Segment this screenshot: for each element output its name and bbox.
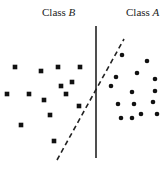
class-b-square-marker [39,69,44,74]
class-b-square-marker [78,65,83,70]
class-b-square-marker [52,139,57,144]
class-b-square-marker [19,123,24,128]
class-b-square-marker [42,98,47,103]
class-a-dot-marker [153,77,158,82]
dashed-separator-line [57,39,124,160]
class-a-dot-marker [155,112,160,117]
class-b-square-marker [59,84,64,89]
class-b-square-marker [56,65,61,70]
class-b-square-marker [64,92,69,97]
class-a-dot-marker [139,112,144,117]
class-b-square-marker [48,113,53,118]
class-a-dot-marker [145,59,150,64]
class-a-label: Class A [126,6,160,18]
class-a-dot-marker [114,75,119,80]
class-a-dot-marker [151,100,156,105]
class-a-dot-marker [119,116,124,121]
class-b-square-marker [13,65,18,70]
class-b-label: Class B [42,6,76,18]
class-separation-diagram: Class B Class A [0,0,167,173]
class-b-square-marker [77,104,82,109]
class-a-dot-marker [153,89,158,94]
class-b-square-marker [70,80,75,85]
class-a-dot-marker [130,90,135,95]
class-b-square-marker [5,92,10,97]
class-a-dot-marker [116,102,121,107]
class-b-square-marker [27,92,32,97]
class-a-dot-marker [120,53,125,58]
class-b-points [5,65,83,144]
class-a-dot-marker [109,84,114,89]
class-a-dot-marker [132,102,137,107]
class-a-dot-marker [135,71,140,76]
class-a-dot-marker [130,116,135,121]
class-a-points [109,53,160,121]
